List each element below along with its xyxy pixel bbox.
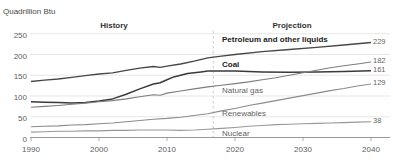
x-tick-label-2000: 2000 — [85, 145, 113, 154]
end-value-natural-gas: 182 — [373, 56, 386, 65]
x-tick-label-2030: 2030 — [289, 145, 317, 154]
series-line-petroleum-and-other-liquids — [31, 43, 371, 82]
x-tick-label-1990: 1990 — [17, 145, 45, 154]
series-label-natural-gas: Natural gas — [222, 86, 263, 95]
x-tick-label-2040: 2040 — [357, 145, 385, 154]
history-section-label: History — [74, 21, 154, 30]
series-line-nuclear — [31, 122, 371, 132]
y-axis-unit-label: Quadrillion Btu — [3, 7, 55, 16]
end-value-petroleum-and-other-liquids: 229 — [373, 37, 386, 46]
end-value-renewables: 129 — [373, 78, 386, 87]
series-line-natural-gas — [31, 62, 371, 107]
y-tick-label-0: 0 — [3, 135, 27, 144]
projection-section-label: Projection — [252, 21, 332, 30]
y-tick-label-100: 100 — [3, 93, 27, 102]
x-tick-label-2010: 2010 — [153, 145, 181, 154]
x-tick-label-2020: 2020 — [221, 145, 249, 154]
energy-outlook-chart: Quadrillion Btu History Projection Petro… — [0, 0, 393, 162]
end-value-nuclear: 38 — [373, 116, 381, 125]
y-tick-label-50: 50 — [3, 114, 27, 123]
y-tick-label-150: 150 — [3, 72, 27, 81]
series-label-renewables: Renewables — [222, 109, 266, 118]
end-value-coal: 161 — [373, 65, 386, 74]
chart-plot-area — [0, 0, 393, 162]
y-tick-label-200: 200 — [3, 52, 27, 61]
y-tick-label-250: 250 — [3, 31, 27, 40]
series-label-petroleum-and-other-liquids: Petroleum and other liquids — [222, 35, 328, 44]
series-line-renewables — [31, 84, 371, 127]
series-label-coal: Coal — [222, 60, 239, 69]
series-label-nuclear: Nuclear — [222, 129, 250, 138]
